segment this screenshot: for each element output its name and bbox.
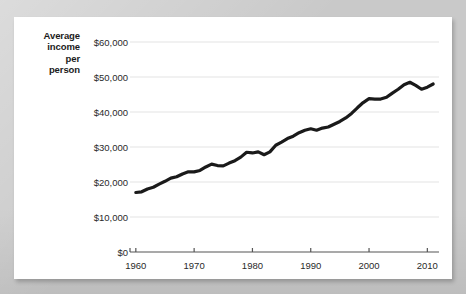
figure-card: Averageincomeperperson $0$10,000$20,000$…: [14, 17, 452, 279]
income-line-series: [136, 82, 433, 192]
line-chart-plot: [14, 17, 452, 279]
gridlines: [130, 42, 439, 217]
